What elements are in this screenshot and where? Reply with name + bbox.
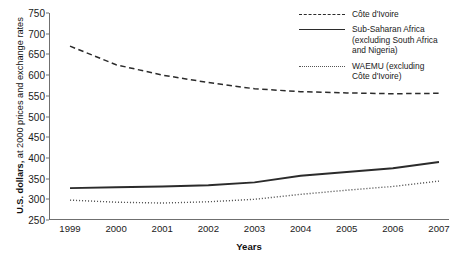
series-line [70,162,439,188]
legend-swatch-dotted [299,61,345,71]
y-axis-title-rest: at 2000 prices and exchange rates [15,17,25,161]
y-axis-title-bold: U.S. dollars, [15,161,25,214]
legend-item: Sub-Saharan Africa(excluding South Afric… [299,24,459,55]
legend-swatch-solid [299,24,345,34]
legend-item-label: Côte d'Ivoire [352,9,459,19]
y-tick-label: 450 [28,132,45,143]
x-tick-label: 2006 [382,223,403,234]
x-tick-label: 2002 [198,223,219,234]
legend-item: Côte d'Ivoire [299,9,459,19]
series-line [70,181,439,203]
y-axis-title: U.S. dollars, at 2000 prices and exchang… [15,1,26,231]
x-tick-label: 1999 [59,223,80,234]
x-tick-label: 2000 [105,223,126,234]
y-tick-label: 350 [28,173,45,184]
x-axis-title: Years [49,241,449,252]
y-tick-label: 600 [28,70,45,81]
y-tick-label: 700 [28,28,45,39]
y-tick-label: 400 [28,152,45,163]
legend-item-label: Sub-Saharan Africa(excluding South Afric… [352,24,459,55]
x-tick-label: 2003 [244,223,265,234]
chart-figure: U.S. dollars, at 2000 prices and exchang… [0,0,459,266]
x-tick-label: 2001 [152,223,173,234]
legend-item-label: WAEMU (excludingCôte d'Ivoire) [352,61,459,82]
x-tick-label: 2007 [428,223,449,234]
y-tick-label: 750 [28,8,45,19]
y-tick-label: 550 [28,90,45,101]
x-tick-label: 2004 [290,223,311,234]
y-tick-label: 650 [28,49,45,60]
legend-item: WAEMU (excludingCôte d'Ivoire) [299,61,459,82]
legend-swatch-dashed [299,9,345,19]
y-tick-label: 250 [28,215,45,226]
y-tick-label: 300 [28,194,45,205]
y-tick-label: 500 [28,111,45,122]
x-tick-label: 2005 [336,223,357,234]
chart-legend: Côte d'IvoireSub-Saharan Africa(excludin… [299,9,459,86]
